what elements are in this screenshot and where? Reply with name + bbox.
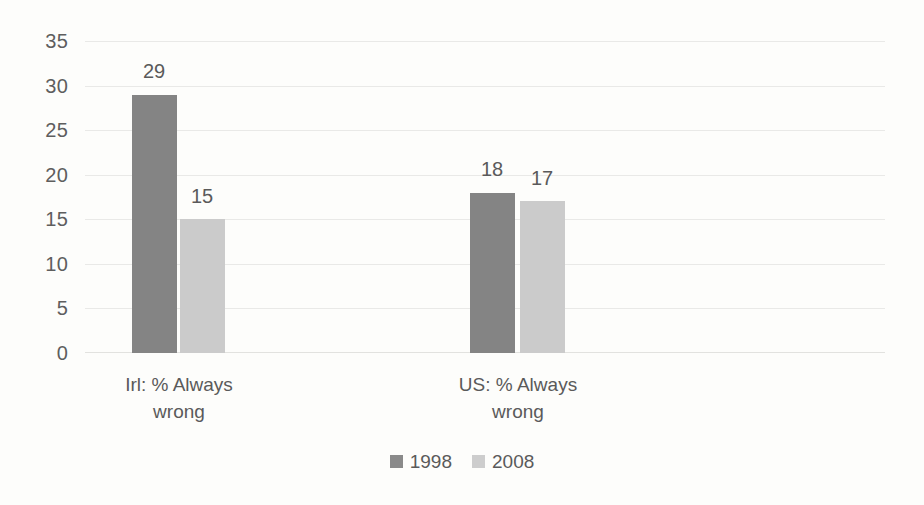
bar-irl-2008[interactable] [180,219,225,353]
bar-value-label-irl-2008: 15 [191,186,213,206]
legend-label-2008: 2008 [492,452,534,471]
category-label-irl-line2: wrong [125,399,233,426]
gridline-25 [85,130,885,131]
category-label-us-line2: wrong [459,399,577,426]
category-label-us-line1: US: % Always [459,372,577,399]
y-tick-label-35: 35 [22,31,68,51]
legend-swatch-icon-1998 [390,455,403,468]
bar-value-label-us-2008: 17 [531,168,553,188]
y-tick-label-30: 30 [22,76,68,96]
legend-label-1998: 1998 [410,452,452,471]
y-axis: 35 30 25 20 15 10 5 0 [18,41,68,353]
y-tick-label-15: 15 [22,209,68,229]
y-tick-label-25: 25 [22,120,68,140]
legend: 1998 2008 [0,452,924,471]
bar-us-2008[interactable] [520,201,565,353]
legend-swatch-icon-2008 [472,455,485,468]
y-tick-label-20: 20 [22,165,68,185]
y-tick-label-5: 5 [22,298,68,318]
category-label-us: US: % Always wrong [459,372,577,426]
gridline-35 [85,41,885,42]
category-label-irl: Irl: % Always wrong [125,372,233,426]
bar-value-label-irl-1998: 29 [143,61,165,81]
y-tick-label-10: 10 [22,254,68,274]
category-label-irl-line1: Irl: % Always [125,372,233,399]
y-tick-label-0: 0 [22,343,68,363]
bar-value-label-us-1998: 18 [481,159,503,179]
legend-item-2008[interactable]: 2008 [472,452,534,471]
legend-item-1998[interactable]: 1998 [390,452,452,471]
bar-irl-1998[interactable] [132,95,177,354]
bar-us-1998[interactable] [470,193,515,354]
bar-chart: 35 30 25 20 15 10 5 0 29 15 18 17 Irl: %… [0,0,924,505]
gridline-30 [85,86,885,87]
